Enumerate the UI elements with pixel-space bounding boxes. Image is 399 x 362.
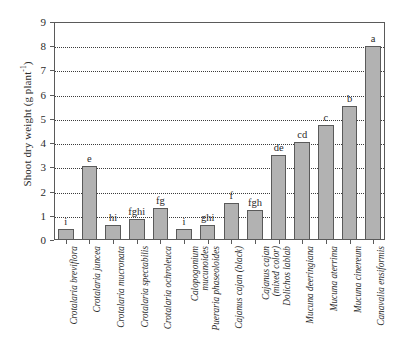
- bar: [224, 203, 240, 240]
- bar-significance-letter: fgh: [248, 197, 262, 208]
- bar-group: cd: [294, 22, 310, 240]
- bar-group: e: [82, 22, 98, 240]
- bar: [294, 142, 310, 240]
- x-axis-label-13: Canavalia ensiformis: [377, 246, 387, 326]
- bar-group: c: [318, 22, 334, 240]
- bars-layer: iehifghifgighiffghdecdcba: [54, 22, 385, 240]
- x-tick-mark-6: [208, 240, 209, 244]
- bar: [365, 46, 381, 240]
- y-tick-label-8: 8: [41, 40, 47, 52]
- x-tick-mark-11: [326, 240, 327, 244]
- bar: [105, 225, 121, 240]
- bar-significance-letter: f: [230, 190, 234, 201]
- bar-group: de: [271, 22, 287, 240]
- x-tick-mark-7: [231, 240, 232, 244]
- y-tick-label-4: 4: [41, 137, 47, 149]
- x-tick-mark-3: [137, 240, 138, 244]
- y-tick-label-7: 7: [41, 64, 47, 76]
- bar-group: fg: [153, 22, 169, 240]
- x-axis-label-6: Pueraria phaseoloides: [212, 246, 222, 330]
- bar-significance-letter: i: [64, 216, 67, 227]
- bar: [58, 229, 74, 240]
- x-tick-mark-13: [373, 240, 374, 244]
- bar: [176, 229, 192, 240]
- x-label-line: (mixed color): [272, 246, 282, 300]
- bar-group: ghi: [200, 22, 216, 240]
- y-tick-label-6: 6: [41, 89, 47, 101]
- x-axis-label-1: Crotalaria juncea: [93, 246, 103, 313]
- x-axis-category-labels: Crotalaria brevifloraCrotalaria junceaCr…: [54, 246, 385, 362]
- x-tick-mark-4: [160, 240, 161, 244]
- bar-significance-letter: e: [87, 153, 92, 164]
- bar-group: fghi: [129, 22, 145, 240]
- x-tick-mark-5: [184, 240, 185, 244]
- bar: [129, 219, 145, 240]
- bar: [318, 125, 334, 240]
- x-tick-mark-0: [66, 240, 67, 244]
- x-axis-label-4: Crotalaria ochroleuca: [164, 246, 174, 329]
- y-tick-label-1: 1: [41, 210, 47, 222]
- y-axis-ticks: 0123456789: [0, 0, 54, 362]
- x-axis-label-10: Mucuna deeringiana: [306, 246, 316, 324]
- y-tick-label-3: 3: [41, 161, 47, 173]
- bar-group: i: [58, 22, 74, 240]
- bar-group: i: [176, 22, 192, 240]
- bar-significance-letter: hi: [109, 212, 117, 223]
- bar-significance-letter: a: [371, 33, 376, 44]
- x-axis-label-12: Mucuna cinereum: [354, 246, 364, 313]
- bar-group: fgh: [247, 22, 263, 240]
- bar-group: hi: [105, 22, 121, 240]
- x-tick-mark-12: [350, 240, 351, 244]
- bar: [342, 106, 358, 240]
- x-tick-mark-10: [302, 240, 303, 244]
- bar-significance-letter: c: [324, 112, 329, 123]
- x-axis-label-3: Crotalaria spectabilis: [141, 246, 151, 328]
- bar: [82, 166, 98, 240]
- x-axis-label-9: Dolichos lablab: [283, 246, 293, 306]
- bar-group: b: [342, 22, 358, 240]
- y-tick-label-0: 0: [41, 234, 47, 246]
- bar-significance-letter: b: [347, 93, 352, 104]
- x-axis-label-0: Crotalaria breviflora: [70, 246, 80, 325]
- bar: [271, 155, 287, 240]
- x-tick-mark-2: [113, 240, 114, 244]
- y-tick-label-5: 5: [41, 113, 47, 125]
- bar: [200, 225, 216, 240]
- x-tick-mark-1: [89, 240, 90, 244]
- x-axis-label-8: Cajanus cajan(mixed color): [262, 246, 282, 300]
- y-tick-label-2: 2: [41, 186, 47, 198]
- bar-significance-letter: de: [274, 142, 284, 153]
- bar: [247, 210, 263, 240]
- y-tick-label-9: 9: [41, 16, 47, 28]
- x-axis-label-5: Calopogoniummucunoides: [191, 246, 211, 301]
- x-axis-label-2: Crotalaria mucronata: [117, 246, 127, 328]
- bar-significance-letter: cd: [297, 129, 307, 140]
- bar-significance-letter: fg: [156, 195, 165, 206]
- x-axis-label-7: Cajanus cajan (black): [235, 246, 245, 329]
- x-axis-ticks: [54, 240, 385, 245]
- shoot-dry-weight-bar-chart: Shoot dry weight (g plant-1) 0123456789 …: [0, 0, 399, 362]
- bar-group: f: [224, 22, 240, 240]
- x-axis-label-11: Mucuna aterrima: [330, 246, 340, 311]
- bar-group: a: [365, 22, 381, 240]
- x-tick-mark-8: [255, 240, 256, 244]
- bar-significance-letter: ghi: [201, 212, 214, 223]
- bar-significance-letter: fghi: [128, 206, 145, 217]
- bar-significance-letter: i: [183, 216, 186, 227]
- bar: [153, 208, 169, 240]
- x-tick-mark-9: [279, 240, 280, 244]
- x-label-line: mucunoides: [201, 246, 211, 301]
